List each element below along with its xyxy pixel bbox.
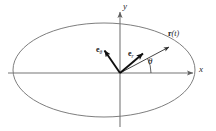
e-r-subscript: r [132, 53, 134, 59]
e-theta-subscript: θ [100, 49, 103, 55]
figure-canvas: y x r(t) er eθ θ [0, 0, 216, 131]
unit-vector-e-theta-label: eθ [96, 46, 102, 55]
x-axis-label: x [199, 65, 203, 74]
position-vector-argument: (t) [172, 29, 180, 38]
position-vector-label: r(t) [168, 30, 179, 38]
unit-vector-e-r-label: er [128, 50, 134, 59]
unit-vector-e-theta [105, 51, 121, 74]
y-axis-label: y [123, 2, 127, 11]
polar-orbit-diagram [0, 0, 216, 131]
angle-theta-label: θ [148, 57, 152, 66]
